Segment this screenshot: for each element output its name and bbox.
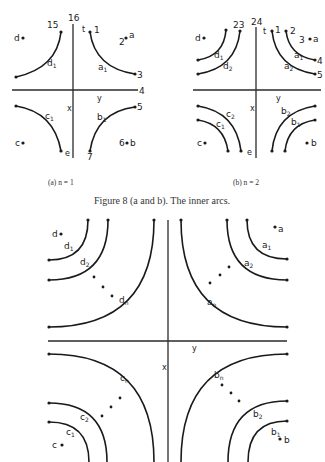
label-1: 1 — [275, 25, 281, 35]
point-label-c: c — [52, 440, 57, 450]
ellipsis-dot — [102, 286, 105, 289]
label-15: 15 — [47, 20, 58, 30]
ellipsis-dot — [93, 276, 96, 279]
arc-label-b1: b1 — [271, 427, 281, 438]
arc-label-a1: a1 — [262, 240, 272, 251]
label-2: 2 — [290, 26, 296, 36]
point-label-b: b — [311, 138, 317, 148]
ellipsis-dot — [219, 274, 222, 277]
caption-b: (b) n = 2 — [233, 178, 259, 187]
arc-c2 — [49, 403, 107, 462]
label-4: 4 — [317, 56, 323, 66]
point-label-c: c — [15, 138, 20, 148]
arc-label-b2: b2 — [253, 409, 263, 420]
label-3: 3 — [137, 70, 143, 80]
point-b — [125, 141, 128, 144]
arc-b2 — [272, 106, 315, 151]
point-b — [278, 437, 281, 440]
figure-caption: Figure 8 (a and b). The inner arcs. — [94, 195, 230, 207]
caption-a: (a) n = 1 — [48, 178, 74, 187]
label-5: 5 — [317, 70, 323, 80]
arc-an — [181, 220, 287, 327]
label-t: t — [263, 27, 266, 36]
point-label-e: e — [247, 148, 252, 157]
point-d — [59, 232, 62, 235]
label-5: 5 — [137, 102, 143, 112]
point-label-b: b — [284, 435, 290, 445]
figure-main: y x d d1 d2 dn a a1 a2 an — [47, 218, 290, 462]
point-label-c: c — [197, 138, 202, 148]
arc-label-dn: dn — [119, 295, 129, 306]
point-label-a: a — [313, 34, 319, 44]
label-x: x — [67, 104, 72, 113]
arc-dn — [49, 220, 154, 327]
arc-b1 — [248, 421, 287, 462]
ellipsis-dot — [110, 406, 113, 409]
arc-label-d1: d1 — [214, 50, 224, 61]
label-2: 2 — [119, 37, 125, 47]
arc-label-b1: b1 — [97, 112, 107, 123]
arc-bn — [181, 354, 287, 462]
label-t: t — [82, 25, 85, 34]
arc-label-d1: d1 — [64, 241, 74, 252]
point-a — [124, 36, 127, 39]
arc-label-bn: bn — [214, 370, 224, 381]
point-label-e: e — [65, 149, 70, 158]
ellipsis-dot — [230, 392, 233, 395]
arc-d1 — [49, 220, 88, 260]
point-d — [21, 36, 24, 39]
ellipsis-dot — [238, 400, 241, 403]
ellipsis-dot — [228, 266, 231, 269]
point-c — [21, 141, 24, 144]
point-b — [305, 141, 308, 144]
label-23: 23 — [233, 20, 244, 30]
arc-label-d2: d2 — [80, 257, 90, 268]
arc-label-a2: a2 — [244, 258, 254, 269]
figure-b: 24 t y x 23 d1 d2 d 1 2 3 a 4 5 a1 a2 c2… — [193, 17, 323, 158]
point-label-d: d — [52, 229, 58, 239]
arc-label-an: an — [207, 297, 217, 308]
label-x: x — [162, 363, 167, 372]
ellipsis-dot — [111, 295, 114, 298]
point-c — [203, 141, 206, 144]
label-1: 1 — [94, 25, 100, 35]
label-7: 7 — [87, 152, 93, 162]
ellipsis-dot — [119, 397, 122, 400]
label-4: 4 — [139, 86, 145, 96]
point-a — [273, 225, 276, 228]
label-6: 6 — [119, 138, 125, 148]
ellipsis-dot — [209, 282, 212, 285]
arc-label-c1: c1 — [216, 119, 225, 130]
label-x: x — [250, 104, 255, 113]
arc-label-b1: b1 — [291, 117, 301, 128]
point-label-d: d — [195, 33, 201, 43]
arc-label-d1: d1 — [47, 58, 57, 69]
label-y: y — [192, 344, 197, 353]
label-y: y — [276, 94, 281, 103]
label-y: y — [97, 94, 102, 103]
arc-label-a2: a2 — [284, 61, 294, 72]
point-d — [202, 36, 205, 39]
arc-cn — [49, 354, 154, 462]
point-label-b: b — [130, 138, 136, 148]
figure-8-diagram: 16 t 4 y x 15 d1 d 1 3 a1 2 a c1 c e 5 b… — [0, 0, 325, 462]
arc-label-b2: b2 — [281, 106, 291, 117]
arc-label-cn: cn — [120, 373, 129, 384]
label-16: 16 — [68, 13, 80, 23]
ellipsis-dot — [101, 415, 104, 418]
arc-label-c2: c2 — [226, 109, 235, 120]
point-label-a: a — [278, 224, 284, 234]
label-24: 24 — [251, 17, 263, 27]
point-a — [308, 37, 311, 40]
ellipsis-dot — [221, 384, 224, 387]
point-c — [60, 443, 63, 446]
figure-a: 16 t 4 y x 15 d1 d 1 3 a1 2 a c1 c e 5 b… — [12, 13, 145, 162]
arc-label-c1: c1 — [45, 111, 54, 122]
point-label-d: d — [14, 33, 20, 43]
point-label-a: a — [129, 30, 135, 40]
arc-label-a1: a1 — [294, 50, 304, 61]
label-3: 3 — [299, 35, 305, 45]
arc-label-d2: d2 — [223, 61, 233, 72]
arc-label-a1: a1 — [98, 62, 108, 73]
